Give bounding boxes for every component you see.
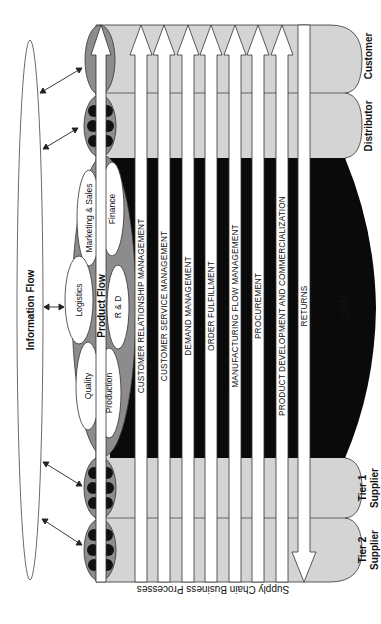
customer-label: Customer — [363, 33, 374, 80]
rd-label: R & D — [113, 296, 123, 319]
oem-region — [110, 158, 376, 458]
distributor-label: Distributor — [363, 100, 374, 151]
tier2-label-line2: Supplier — [369, 530, 380, 570]
tier1-label-line2: Supplier — [369, 468, 380, 508]
process-label-7: PRODUCT DEVELOPMENT AND COMMERCIALIZATIO… — [277, 196, 287, 416]
logistics-label: Logistics — [74, 283, 84, 316]
supply-chain-processes-label: Supply Chain Business Processes — [137, 584, 289, 595]
supply-chain-framework-diagram: Information Flow — [0, 0, 381, 624]
process-label-8: RETURNS — [299, 285, 309, 326]
process-label-4: ORDER FULFILLMENT — [206, 261, 216, 351]
tier1-label-line1: Tier 1 — [357, 474, 368, 501]
marketing-sales-label: Marketing & Sales — [84, 184, 94, 253]
oem-label: OEM — [340, 295, 351, 318]
tier2-label-line1: Tier 2 — [357, 536, 368, 563]
process-label-2: CUSTOMER SERVICE MANAGEMENT — [159, 231, 169, 381]
process-label-6: PROCUREMENT — [253, 273, 263, 339]
quality-label: Quality — [83, 372, 93, 399]
product-flow-label: Product Flow — [96, 274, 107, 338]
finance-label: Finance — [107, 194, 117, 225]
production-label: Production — [104, 372, 114, 413]
process-label-3: DEMAND MANAGEMENT — [183, 256, 193, 355]
process-label-1: CUSTOMER RELATIONSHIP MANAGEMENT — [136, 219, 146, 394]
information-flow-label: Information Flow — [25, 270, 36, 351]
process-label-5: MANUFACTURING FLOW MANAGEMENT — [230, 224, 240, 387]
